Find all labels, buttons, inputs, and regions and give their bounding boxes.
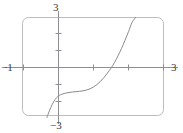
x-max-label: 3	[171, 62, 177, 73]
x-min-label: −1	[1, 62, 13, 73]
y-max-label: 3	[53, 2, 59, 13]
plot-canvas	[0, 0, 183, 133]
graphing-calculator-plot: 3 −3 −1 3	[0, 0, 183, 133]
y-min-label: −3	[50, 120, 62, 131]
